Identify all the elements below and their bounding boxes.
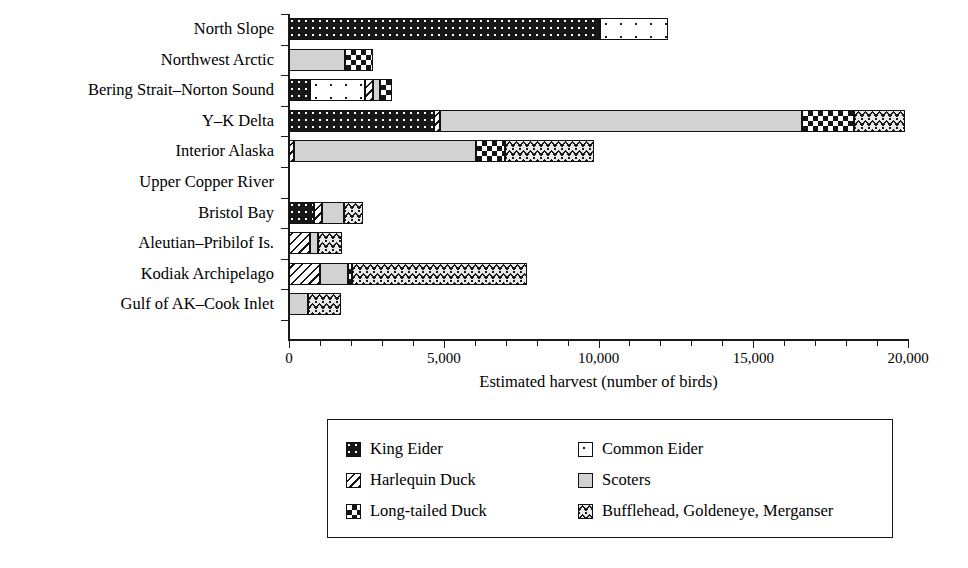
y-axis-tick [281,198,289,199]
y-axis-tick [281,228,289,229]
bar-segment [476,140,505,162]
bar-segment [344,202,363,224]
bar-segment [310,232,318,254]
y-axis-tick-label: Kodiak Archipelago [141,264,274,284]
x-axis-minor-tick [506,341,507,346]
bar-segment [289,110,434,132]
bar-segment [289,263,320,285]
bar-segment [318,232,342,254]
y-axis-tick [281,14,289,15]
x-axis-tick-label: 5,000 [427,350,461,367]
bar-segment [294,140,476,162]
legend-swatch-icon [578,442,593,457]
bar-segment [308,293,341,315]
y-axis-tick-label: Upper Copper River [139,172,274,192]
y-axis-tick [281,259,289,260]
legend-item: Long-tailed Duck [346,503,578,520]
legend-label: Common Eider [602,441,703,458]
bar-row [289,263,908,285]
x-axis-minor-tick [351,341,352,346]
y-axis-tick [281,75,289,76]
bar-row [289,293,908,315]
x-axis-tick-label: 15,000 [733,350,774,367]
bar-segment [345,49,373,71]
x-axis-major-tick [908,341,909,348]
bar-segment [322,202,344,224]
x-axis-minor-tick [537,341,538,346]
bar-segment [505,140,595,162]
legend-swatch-icon [346,442,361,457]
y-axis-tick-label: Aleutian–Pribilof Is. [138,233,274,253]
y-axis-tick-label: Northwest Arctic [161,50,274,70]
legend-swatch-icon [346,473,361,488]
y-axis-tick [281,320,289,321]
legend-item: Harlequin Duck [346,472,578,489]
x-axis-tick-label: 0 [285,350,293,367]
bar-segment [802,110,854,132]
bar-row [289,202,908,224]
legend-label: Long-tailed Duck [370,503,487,520]
legend-label: Bufflehead, Goldeneye, Merganser [602,503,833,520]
x-axis-major-tick [753,341,754,348]
y-axis-tick-label: Y–K Delta [202,111,274,131]
legend-grid: King EiderCommon EiderHarlequin DuckScot… [346,434,886,527]
y-axis-tick [281,289,289,290]
bar-segment [289,232,310,254]
bar-chart: North SlopeNorthwest ArcticBering Strait… [0,0,968,568]
y-axis-labels: North SlopeNorthwest ArcticBering Strait… [0,0,282,340]
y-axis-tick-label: Bering Strait–Norton Sound [88,80,274,100]
legend-item: Scoters [578,472,886,489]
x-axis-minor-tick [815,341,816,346]
x-axis-major-tick [444,341,445,348]
x-axis-title: Estimated harvest (number of birds) [289,372,908,392]
bar-segment [310,79,365,101]
bar-row [289,171,908,193]
x-axis-minor-tick [784,341,785,346]
bar-segment [289,202,314,224]
bar-segment [380,79,392,101]
plot-area [289,18,908,338]
bar-row [289,49,908,71]
y-axis-tick [281,106,289,107]
y-axis-tick-label: Interior Alaska [175,141,274,161]
y-axis-tick-label: North Slope [194,19,274,39]
bar-row [289,110,908,132]
legend-item: Common Eider [578,441,886,458]
bar-segment [289,18,600,40]
bar-segment [440,110,802,132]
bar-segment [289,49,345,71]
bar-segment [289,79,310,101]
y-axis-tick-label: Gulf of AK–Cook Inlet [120,294,274,314]
y-axis-tick-label: Bristol Bay [198,203,274,223]
legend-swatch-icon [578,473,593,488]
legend-label: Scoters [602,472,651,489]
bar-segment [314,202,322,224]
bar-row [289,140,908,162]
y-axis-tick [281,167,289,168]
x-axis-minor-tick [691,341,692,346]
legend-item: Bufflehead, Goldeneye, Merganser [578,503,886,520]
x-axis-minor-tick [877,341,878,346]
x-axis-minor-tick [660,341,661,346]
x-axis-major-tick [599,341,600,348]
x-axis-minor-tick [320,341,321,346]
x-axis-minor-tick [629,341,630,346]
bar-segment [289,293,308,315]
bar-segment [365,79,373,101]
x-axis-minor-tick [722,341,723,346]
bar-row [289,18,908,40]
legend-swatch-icon [346,504,361,519]
legend-label: Harlequin Duck [370,472,476,489]
bar-segment [373,79,380,101]
chart-legend: King EiderCommon EiderHarlequin DuckScot… [327,419,893,538]
bar-segment [320,263,348,285]
y-axis-tick [281,45,289,46]
bar-row [289,79,908,101]
x-axis-minor-tick [413,341,414,346]
legend-label: King Eider [370,441,443,458]
x-axis-minor-tick [475,341,476,346]
y-axis-tick [281,136,289,137]
x-axis-minor-tick [846,341,847,346]
legend-item: King Eider [346,441,578,458]
x-axis-tick-label: 10,000 [578,350,619,367]
